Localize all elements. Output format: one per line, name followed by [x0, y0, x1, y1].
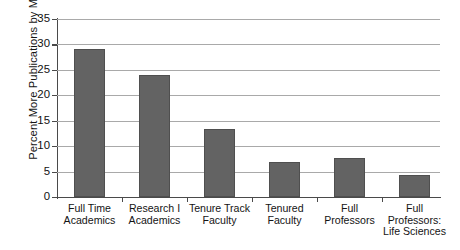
x-axis-line — [56, 197, 441, 198]
x-tick-mark — [382, 197, 383, 202]
gridline — [57, 70, 440, 71]
gridline — [57, 172, 440, 173]
bar — [204, 129, 235, 197]
y-tick-label: 35 — [8, 13, 50, 24]
y-tick-label: 20 — [8, 89, 50, 100]
x-tick-mark — [122, 197, 123, 202]
y-tick-mark — [52, 197, 57, 198]
bar — [74, 49, 105, 198]
x-tick-mark — [252, 197, 253, 202]
y-tick-label: 10 — [8, 140, 50, 151]
gridline — [57, 95, 440, 96]
y-tick-mark — [52, 70, 57, 71]
x-tick-label: FullProfessors:Life Sciences — [372, 203, 458, 238]
y-tick-mark — [52, 19, 57, 20]
bar — [334, 158, 365, 197]
gridline — [57, 146, 440, 147]
y-tick-mark — [52, 172, 57, 173]
x-tick-label-line: Life Sciences — [372, 226, 458, 238]
bar — [269, 162, 300, 197]
y-tick-label: 15 — [8, 115, 50, 126]
y-tick-mark — [52, 121, 57, 122]
y-tick-label: 5 — [8, 166, 50, 177]
x-tick-label-line: Full — [372, 203, 458, 215]
x-tick-mark — [317, 197, 318, 202]
y-tick-label: 30 — [8, 38, 50, 49]
y-tick-mark — [52, 44, 57, 45]
y-tick-mark — [52, 95, 57, 96]
gridline — [57, 121, 440, 122]
bar — [139, 75, 170, 197]
x-tick-mark — [187, 197, 188, 202]
y-tick-label: 25 — [8, 64, 50, 75]
bar-chart: Percent More Publications by Men 0510152… — [0, 0, 460, 250]
gridline — [57, 19, 440, 20]
y-tick-mark — [52, 146, 57, 147]
y-tick-label: 0 — [8, 191, 50, 202]
gridline — [57, 44, 440, 45]
bar — [399, 175, 430, 197]
